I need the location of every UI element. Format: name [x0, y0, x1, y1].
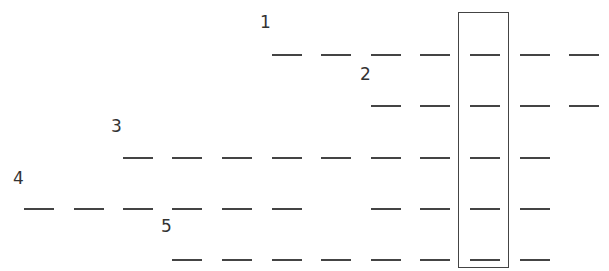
dash-segment [222, 259, 252, 261]
dash-segment [272, 54, 302, 56]
dash-segment [123, 157, 153, 159]
dash-segment [272, 157, 302, 159]
dash-segment [420, 105, 450, 107]
row-label: 2 [360, 66, 371, 83]
row-label: 5 [161, 218, 172, 235]
dash-segment [272, 259, 302, 261]
dash-segment [321, 157, 351, 159]
dash-segment [371, 105, 401, 107]
row-label: 3 [111, 118, 122, 135]
dash-segment [123, 208, 153, 210]
dash-segment [321, 259, 351, 261]
dash-segment [569, 105, 599, 107]
dash-segment [420, 157, 450, 159]
dash-segment [24, 208, 54, 210]
dash-segment [420, 208, 450, 210]
dash-segment [371, 259, 401, 261]
dash-segment [172, 259, 202, 261]
dash-segment [172, 157, 202, 159]
dash-segment [520, 54, 550, 56]
dash-segment [520, 157, 550, 159]
dash-segment [222, 157, 252, 159]
dash-segment [371, 157, 401, 159]
row-label: 1 [260, 14, 271, 31]
dash-segment [420, 54, 450, 56]
dash-segment [520, 105, 550, 107]
dash-segment [321, 54, 351, 56]
dash-segment [172, 208, 202, 210]
highlight-column-box [458, 12, 509, 268]
dash-segment [569, 54, 599, 56]
dash-segment [371, 54, 401, 56]
dash-segment [520, 259, 550, 261]
dash-segment [420, 259, 450, 261]
dash-segment [272, 208, 302, 210]
dash-segment [371, 208, 401, 210]
dash-segment [222, 208, 252, 210]
dash-segment [74, 208, 104, 210]
row-label: 4 [13, 170, 24, 187]
dash-segment [520, 208, 550, 210]
